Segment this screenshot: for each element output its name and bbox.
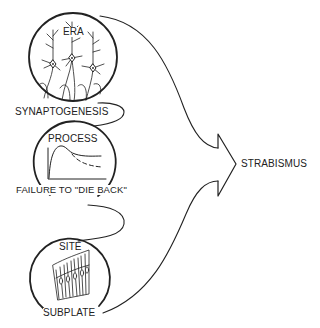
- arrowhead-icon: [218, 134, 236, 196]
- stage-heading-process: PROCESS: [48, 134, 98, 144]
- upper-converging-curve: [100, 16, 218, 148]
- stage-label-synaptogenesis: SYNAPTOGENESIS: [15, 107, 108, 117]
- lower-converging-curve: [103, 181, 218, 313]
- connector-loop-2: [78, 205, 124, 241]
- stage-heading-era: ERA: [62, 27, 85, 37]
- stage-label-failure-to-die-back: FAILURE TO "DIE BACK": [16, 185, 127, 195]
- outcome-label-strabismus: STRABISMUS: [241, 159, 307, 169]
- stage-label-subplate: SUBPLATE: [43, 308, 95, 318]
- growth-curve-graph-icon: [48, 146, 106, 179]
- stage-heading-site: SITE: [59, 242, 82, 252]
